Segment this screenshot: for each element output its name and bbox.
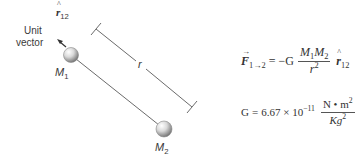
- force-symbol: →F1→2: [241, 54, 266, 69]
- unit-vector-symbol: ^r12: [56, 7, 69, 18]
- unit-fraction: N • m2 Kg2: [321, 98, 355, 125]
- equals-sign: =: [269, 54, 276, 69]
- mass1-sphere: [64, 48, 79, 63]
- distance-bracket: [91, 23, 197, 113]
- mass2-label: M2: [155, 142, 168, 153]
- equals-sign: =: [252, 106, 258, 118]
- mass1-label: M1: [55, 67, 68, 78]
- g-value: 6.67 × 10−11: [261, 106, 315, 118]
- unit-label: Unit: [24, 26, 42, 36]
- vector-label: vector: [16, 38, 43, 48]
- g-symbol: G: [241, 106, 249, 118]
- gravitational-constant-equation: G = 6.67 × 10−11 N • m2 Kg2: [241, 97, 359, 127]
- minus-g: −G: [279, 54, 294, 69]
- mass-fraction: M1M2 r2: [298, 46, 330, 75]
- distance-label: r: [138, 59, 142, 70]
- unit-vector-term: ^r12: [336, 54, 349, 69]
- connecting-line: [71, 55, 164, 129]
- force-equation: →F1→2 = −G M1M2 r2 ^r12: [241, 46, 349, 76]
- mass2-sphere: [156, 121, 172, 137]
- unit-vector-arrow-icon: [57, 39, 66, 47]
